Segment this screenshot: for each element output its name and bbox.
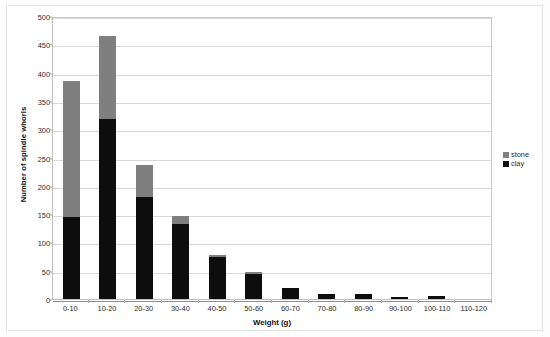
bar-segment-clay[interactable] — [245, 274, 262, 299]
x-tick-label: 10-20 — [89, 304, 126, 313]
y-tick-label: 0 — [6, 296, 50, 305]
y-tick-label: 450 — [6, 41, 50, 50]
bar-stack[interactable] — [428, 296, 445, 299]
x-tick-label: 0-10 — [52, 304, 89, 313]
bar-segment-clay[interactable] — [428, 296, 445, 299]
plot-area — [52, 17, 492, 300]
legend-item[interactable]: clay — [503, 160, 545, 167]
bar-slot — [53, 18, 90, 299]
bar-slot — [455, 18, 492, 299]
y-tick-label: 400 — [6, 69, 50, 78]
x-tick-label: 110-120 — [455, 304, 492, 313]
y-tick-label: 200 — [6, 182, 50, 191]
bar-segment-clay[interactable] — [391, 297, 408, 299]
x-tick-label: 50-60 — [235, 304, 272, 313]
bar-stack[interactable] — [245, 272, 262, 299]
chart-figure: Number of spindle whorls 050100150200250… — [0, 0, 550, 337]
square-black-icon — [503, 161, 509, 167]
chart-legend: stoneclay — [503, 151, 545, 170]
y-tick-label: 300 — [6, 126, 50, 135]
y-tick-label: 250 — [6, 154, 50, 163]
bar-segment-clay[interactable] — [63, 217, 80, 299]
bar-segment-clay[interactable] — [355, 294, 372, 299]
bar-slot — [345, 18, 382, 299]
y-tick-label: 50 — [6, 267, 50, 276]
x-tick-label: 100-110 — [419, 304, 456, 313]
x-tick-label: 80-90 — [345, 304, 382, 313]
bar-slot — [126, 18, 163, 299]
y-tick-label: 100 — [6, 239, 50, 248]
bar-segment-stone[interactable] — [136, 165, 153, 197]
x-axis-tick-labels: 0-1010-2020-3030-4040-5050-6060-7070-808… — [52, 304, 492, 313]
x-tick-label: 90-100 — [382, 304, 419, 313]
bar-segment-clay[interactable] — [318, 294, 335, 299]
x-tick-label: 20-30 — [125, 304, 162, 313]
bar-slot — [418, 18, 455, 299]
bar-stack[interactable] — [282, 288, 299, 299]
bar-slot — [382, 18, 419, 299]
bar-slot — [163, 18, 200, 299]
bar-stack[interactable] — [209, 255, 226, 299]
bar-stack[interactable] — [136, 165, 153, 299]
bar-stack[interactable] — [391, 297, 408, 299]
y-tick-label: 500 — [6, 13, 50, 22]
bar-segment-clay[interactable] — [172, 224, 189, 299]
bar-slot — [309, 18, 346, 299]
bar-stack[interactable] — [172, 216, 189, 299]
bar-stack[interactable] — [355, 294, 372, 299]
bar-slot — [236, 18, 273, 299]
bar-series-group — [53, 18, 491, 299]
y-tick-label: 150 — [6, 211, 50, 220]
bar-segment-stone[interactable] — [99, 36, 116, 119]
bar-segment-clay[interactable] — [209, 257, 226, 299]
bar-segment-clay[interactable] — [136, 197, 153, 299]
legend-item[interactable]: stone — [503, 151, 545, 158]
x-axis-title: Weight (g) — [52, 318, 492, 327]
x-tick-label: 30-40 — [162, 304, 199, 313]
legend-label: stone — [511, 151, 529, 158]
bar-stack[interactable] — [99, 36, 116, 299]
x-tick-label: 70-80 — [309, 304, 346, 313]
bar-stack[interactable] — [63, 81, 80, 299]
x-tick-label: 40-50 — [199, 304, 236, 313]
bar-stack[interactable] — [318, 294, 335, 299]
y-axis-tick-labels: 050100150200250300350400450500 — [0, 17, 50, 300]
bar-segment-clay[interactable] — [282, 288, 299, 299]
x-tick-label: 60-70 — [272, 304, 309, 313]
bar-segment-stone[interactable] — [172, 216, 189, 224]
legend-label: clay — [511, 160, 524, 167]
y-tick-label: 350 — [6, 97, 50, 106]
bar-segment-stone[interactable] — [63, 81, 80, 217]
bar-slot — [199, 18, 236, 299]
square-gray-icon — [503, 152, 509, 158]
bar-slot — [272, 18, 309, 299]
bar-segment-clay[interactable] — [99, 119, 116, 299]
bar-slot — [90, 18, 127, 299]
